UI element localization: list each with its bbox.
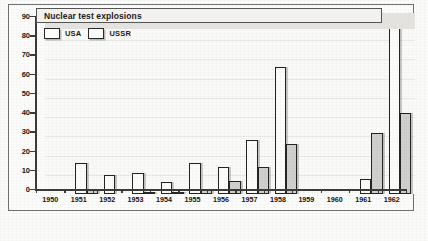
x-tick [207, 189, 208, 193]
legend-swatch-ussr [88, 28, 104, 39]
x-tick [406, 189, 407, 193]
x-tick-label: 1954 [156, 195, 172, 204]
x-tick-label: 1962 [384, 195, 400, 204]
y-tick [30, 170, 35, 171]
y-tick [30, 189, 35, 190]
x-tick [349, 189, 350, 193]
x-tick-label: 1951 [71, 195, 87, 204]
x-tick-label: 1956 [213, 195, 229, 204]
y-tick [30, 93, 35, 94]
x-tick [121, 189, 122, 193]
x-tick-label: 1959 [298, 195, 314, 204]
chart-screenshot: Nuclear test explosions USA USSR 0102030… [0, 0, 428, 241]
bar-usa-1957 [246, 140, 257, 194]
y-tick-label: 60 [4, 69, 30, 78]
chart-title: Nuclear test explosions [37, 11, 142, 21]
x-tick [235, 189, 236, 193]
bar-ussr-1961 [371, 133, 382, 195]
y-axis-labels: 0102030405060708090 [0, 0, 30, 241]
y-tick [30, 151, 35, 152]
x-tick-label: 1960 [327, 195, 343, 204]
legend-swatch-usa [44, 28, 60, 39]
bars-layer [45, 21, 415, 194]
legend-item-usa: USA [44, 28, 81, 39]
bar-ussr-1958 [286, 144, 297, 194]
y-tick-label: 0 [4, 185, 30, 194]
y-tick-label: 90 [4, 12, 30, 21]
y-tick-label: 10 [4, 165, 30, 174]
y-tick-label: 40 [4, 108, 30, 117]
bar-usa-1962 [389, 21, 400, 194]
y-tick [30, 35, 35, 36]
y-tick-label: 30 [4, 127, 30, 136]
x-tick-label: 1950 [42, 195, 58, 204]
chart-legend: USA USSR [44, 27, 131, 39]
y-axis [35, 16, 37, 189]
x-tick [93, 189, 94, 193]
x-tick-label: 1955 [185, 195, 201, 204]
x-tick-label: 1952 [99, 195, 115, 204]
legend-item-ussr: USSR [88, 28, 131, 39]
y-tick [30, 112, 35, 113]
bar-usa-1952 [104, 175, 115, 194]
chart-title-bar: Nuclear test explosions [36, 8, 382, 23]
y-tick-label: 50 [4, 88, 30, 97]
x-tick [378, 189, 379, 193]
x-tick [64, 189, 65, 193]
x-tick [292, 189, 293, 193]
legend-label-ussr: USSR [109, 29, 131, 38]
y-tick [30, 54, 35, 55]
y-tick-label: 20 [4, 146, 30, 155]
x-tick [36, 189, 37, 193]
y-tick-label: 70 [4, 50, 30, 59]
bar-usa-1953 [132, 173, 143, 194]
y-tick [30, 16, 35, 17]
legend-label-usa: USA [65, 29, 81, 38]
x-tick-label: 1961 [355, 195, 371, 204]
x-tick [264, 189, 265, 193]
bar-usa-1961 [360, 179, 371, 194]
x-tick-label: 1957 [241, 195, 257, 204]
x-tick [321, 189, 322, 193]
x-tick-label: 1958 [270, 195, 286, 204]
x-tick [150, 189, 151, 193]
bar-usa-1958 [275, 67, 286, 194]
x-tick-label: 1953 [128, 195, 144, 204]
y-tick [30, 131, 35, 132]
x-tick [178, 189, 179, 193]
y-tick [30, 74, 35, 75]
y-tick-label: 80 [4, 31, 30, 40]
plot-area [45, 21, 415, 194]
bar-ussr-1962 [400, 113, 411, 194]
